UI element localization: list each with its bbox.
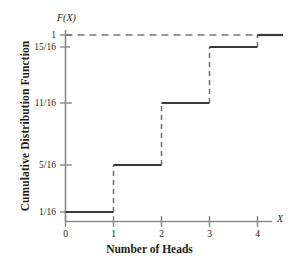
- x-tick-label-3: 3: [200, 229, 220, 239]
- x-axis-symbol: X: [277, 213, 283, 224]
- step-treads: [66, 35, 284, 212]
- x-tick-label-1: 1: [104, 229, 124, 239]
- y-axis-symbol: F(X): [57, 12, 76, 23]
- x-axis-title: Number of Heads: [0, 243, 299, 255]
- cdf-chart-figure: F(X) X 1 15/16 11/16 5/16 1/16 0 1 2 3 4…: [0, 0, 299, 270]
- x-tick-label-4: 4: [248, 229, 268, 239]
- x-tick-label-2: 2: [152, 229, 172, 239]
- y-axis-title: Cumulative Distribution Function: [19, 21, 31, 231]
- step-risers: [114, 35, 258, 212]
- x-tick-label-0: 0: [56, 229, 76, 239]
